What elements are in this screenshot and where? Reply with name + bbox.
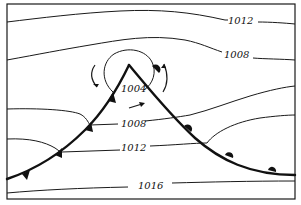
circulation-arrow-right-icon: [163, 64, 167, 92]
isobar-label-1012-top: 1012: [228, 15, 253, 26]
cold-front-line: [7, 65, 129, 179]
isobar-label-1016: 1016: [138, 180, 164, 191]
isobar-1008-upper: [7, 37, 295, 60]
isobar-label-1008-upper: 1008: [224, 49, 249, 60]
isobar-label-1004: 1004: [121, 83, 146, 94]
isobar-1012-warm-sector-right: [150, 115, 295, 146]
circulation-arrow-left-icon: [92, 65, 97, 87]
isobar-label-1008-warm: 1008: [121, 118, 146, 129]
isobar-label-1012-warm: 1012: [121, 142, 146, 153]
weather-map-diagram: 1012 1008 1004 1008 1012 1016: [0, 0, 301, 205]
isobar-1008-warm-sector-right: [145, 86, 295, 121]
warm-front-semicircle-icon: [225, 152, 233, 158]
warm-front-semicircle-icon: [152, 65, 160, 73]
warm-front-semicircle-icon: [268, 167, 276, 172]
